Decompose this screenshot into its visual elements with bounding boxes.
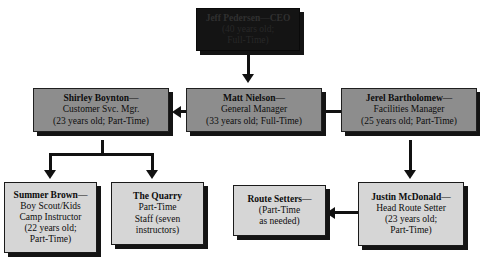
- node-facilities-manager-line-2: (25 years old; Part-Time): [361, 116, 457, 127]
- node-camp-instructor-line-4: Part-Time): [30, 234, 71, 245]
- arrowhead-general-manager-to-customer-service-manager: [172, 106, 181, 118]
- node-general-manager[interactable]: Matt Nielson— General Manager (33 years …: [186, 88, 322, 132]
- node-camp-instructor-line-0: Summer Brown—: [14, 190, 88, 201]
- node-head-route-setter-line-0: Justin McDonald—: [371, 192, 450, 203]
- arrowhead-to-camp-instructor: [44, 170, 56, 179]
- node-the-quarry-staff-line-2: Staff (seven: [135, 214, 180, 225]
- arrowhead-facilities-manager-to-head-route-setter: [404, 170, 416, 179]
- arrowhead-head-route-setter-to-route-setters: [326, 207, 335, 219]
- node-route-setters-line-0: Route Setters—: [247, 194, 311, 205]
- node-facilities-manager[interactable]: Jerel Bartholomew— Facilities Manager (2…: [341, 88, 477, 132]
- node-the-quarry-staff-line-1: Part-Time: [138, 202, 176, 213]
- node-facilities-manager-line-0: Jerel Bartholomew—: [366, 93, 453, 104]
- arrowhead-to-the-quarry-staff: [146, 170, 158, 179]
- node-the-quarry-staff[interactable]: The Quarry Part-Time Staff (seven instru…: [111, 182, 204, 245]
- node-head-route-setter-line-1: Head Route Setter: [376, 203, 446, 214]
- connector-ceo-to-general-manager: [247, 50, 250, 76]
- connector-to-the-quarry-staff: [151, 153, 154, 171]
- node-customer-service-manager-line-2: (23 years old; Part-Time): [53, 116, 149, 127]
- connector-to-camp-instructor: [49, 153, 52, 171]
- node-head-route-setter-line-3: Part-Time): [390, 225, 431, 236]
- node-route-setters-line-2: as needed): [259, 216, 299, 227]
- node-head-route-setter[interactable]: Justin McDonald— Head Route Setter (23 y…: [358, 182, 464, 246]
- node-camp-instructor-line-2: Camp Instructor: [19, 212, 81, 223]
- node-general-manager-line-1: General Manager: [221, 104, 287, 115]
- org-chart: Jeff Pedersen—CEO (40 years old; Full-Ti…: [0, 0, 480, 271]
- node-general-manager-line-2: (33 years old; Full-Time): [206, 116, 302, 127]
- node-the-quarry-staff-line-0: The Quarry: [133, 191, 182, 202]
- node-route-setters-line-1: (Part-Time: [259, 205, 300, 216]
- node-ceo[interactable]: Jeff Pedersen—CEO (40 years old; Full-Ti…: [196, 8, 300, 51]
- node-ceo-line-2: Full-Time): [227, 35, 268, 46]
- node-route-setters[interactable]: Route Setters— (Part-Time as needed): [233, 185, 326, 236]
- node-camp-instructor-line-1: Boy Scout/Kids: [20, 201, 80, 212]
- node-general-manager-line-0: Matt Nielson—: [223, 93, 285, 104]
- connector-customer-service-manager-stem: [101, 140, 104, 154]
- node-camp-instructor[interactable]: Summer Brown— Boy Scout/Kids Camp Instru…: [4, 182, 97, 253]
- node-ceo-line-0: Jeff Pedersen—CEO: [206, 13, 291, 24]
- node-customer-service-manager-line-1: Customer Svc. Mgr.: [63, 104, 140, 115]
- connector-customer-service-manager-bus: [49, 153, 154, 156]
- node-ceo-line-1: (40 years old;: [222, 24, 274, 35]
- connector-facilities-manager-to-head-route-setter: [409, 140, 412, 171]
- arrowhead-ceo-to-general-manager: [242, 74, 254, 83]
- node-camp-instructor-line-3: (22 years old;: [24, 223, 76, 234]
- node-facilities-manager-line-1: Facilities Manager: [374, 104, 445, 115]
- node-head-route-setter-line-2: (23 years old;: [385, 214, 437, 225]
- node-customer-service-manager-line-0: Shirley Boynton—: [63, 93, 138, 104]
- node-customer-service-manager[interactable]: Shirley Boynton— Customer Svc. Mgr. (23 …: [33, 88, 169, 132]
- node-the-quarry-staff-line-3: instructors): [136, 225, 179, 236]
